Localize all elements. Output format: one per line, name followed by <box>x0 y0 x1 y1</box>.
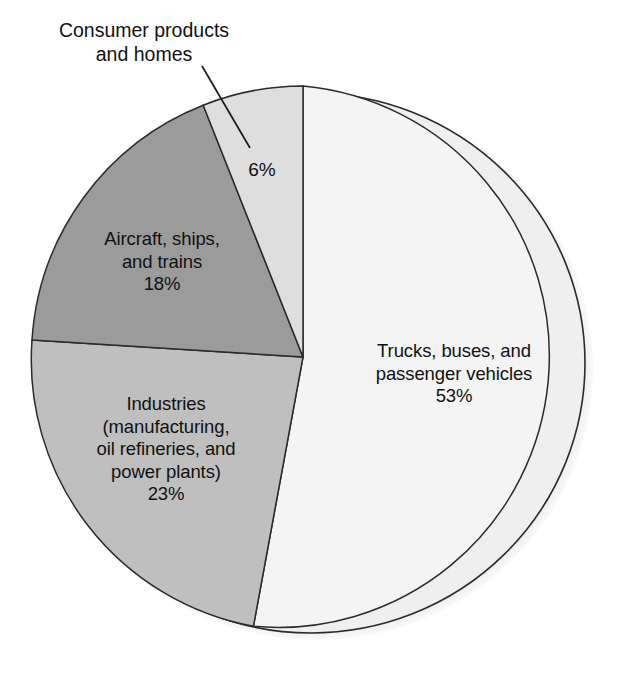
slice-value-consumer: 6% <box>222 159 302 182</box>
slice-label-aircraft: Aircraft, ships, and trains 18% <box>62 228 262 296</box>
pie-chart: Consumer products and homes 6% Aircraft,… <box>0 0 634 683</box>
slice-label-industries: Industries (manufacturing, oil refinerie… <box>58 393 274 506</box>
slice-label-consumer: Consumer products and homes <box>38 18 250 66</box>
slice-label-trucks: Trucks, buses, and passenger vehicles 53… <box>338 340 570 408</box>
